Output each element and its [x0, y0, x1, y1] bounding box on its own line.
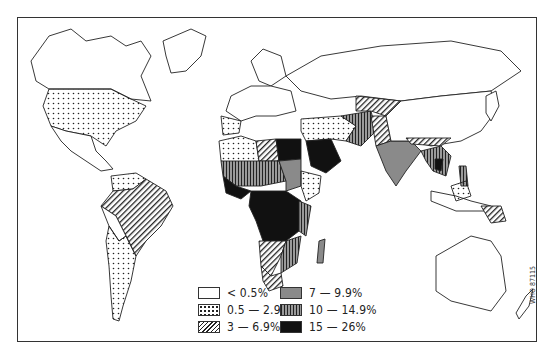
- north-africa-central: [256, 139, 279, 161]
- horn-of-africa: [301, 171, 321, 201]
- swatch-white-icon: [198, 287, 220, 299]
- legend-item-lt0.5: < 0.5%: [198, 286, 268, 300]
- madagascar: [317, 239, 325, 263]
- australia: [436, 236, 506, 311]
- swatch-black-icon: [280, 321, 302, 333]
- japan: [486, 91, 499, 121]
- legend-item-3-6.9: 3 — 6.9%: [198, 320, 281, 334]
- central-africa: [249, 191, 301, 241]
- swatch-diagonal-hatch-icon: [198, 321, 220, 333]
- papua-new-guinea: [481, 206, 506, 223]
- legend-item-7-9.9: 7 — 9.9%: [280, 286, 363, 300]
- europe: [226, 86, 296, 121]
- swatch-dots-icon: [198, 304, 220, 316]
- greenland: [163, 29, 206, 73]
- swatch-grey-icon: [280, 287, 302, 299]
- east-africa: [299, 201, 311, 236]
- legend-item-15-26: 15 — 26%: [280, 320, 366, 334]
- swatch-vertical-hatch-icon: [280, 304, 302, 316]
- egypt-sudan: [276, 139, 301, 161]
- scandinavia: [251, 49, 286, 86]
- india: [376, 141, 421, 186]
- arabia: [306, 139, 341, 173]
- legend: < 0.5% 0.5 — 2.9% 3 — 6.9% 7 — 9.9% 10 —…: [198, 286, 398, 342]
- legend-item-10-14.9: 10 — 14.9%: [280, 303, 377, 317]
- legend-item-0.5-2.9: 0.5 — 2.9%: [198, 303, 291, 317]
- reference-code: WHO 87115: [529, 266, 537, 304]
